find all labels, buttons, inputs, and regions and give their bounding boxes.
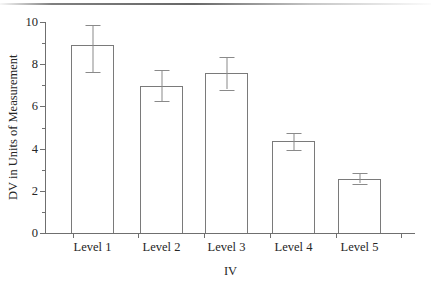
y-tick-label-0: 0	[32, 227, 38, 240]
x-axis-spine	[45, 233, 415, 234]
y-tick-minor-9	[42, 43, 45, 44]
y-tick-6	[40, 106, 45, 107]
errorbar-cap-bottom-level-2	[154, 101, 169, 102]
bar-level-1	[71, 45, 114, 233]
errorbar-cap-bottom-level-3	[219, 90, 234, 91]
x-tick-label-level-4: Level 4	[275, 241, 313, 254]
bar-level-5	[338, 179, 381, 233]
x-tick-label-level-2: Level 2	[143, 241, 181, 254]
figure: DV in Units of Measurement 10 8 6 4 2 0	[0, 0, 431, 289]
y-tick-minor-1	[42, 212, 45, 213]
y-axis-spine	[45, 22, 46, 234]
y-axis-title: DV in Units of Measurement	[4, 22, 22, 233]
errorbar-line-level-4	[293, 133, 294, 150]
y-tick-minor-5	[42, 128, 45, 129]
errorbar-cap-top-level-3	[219, 57, 234, 58]
errorbar-cap-bottom-level-5	[352, 184, 367, 185]
x-tick-0	[73, 233, 74, 238]
plot-area: 10 8 6 4 2 0 Level	[46, 22, 415, 233]
y-tick-8	[40, 64, 45, 65]
errorbar-cap-bottom-level-1	[85, 72, 100, 73]
y-tick-2	[40, 191, 45, 192]
y-tick-label-2: 2	[32, 185, 38, 198]
y-tick-0	[40, 233, 45, 234]
y-tick-4	[40, 149, 45, 150]
errorbar-cap-top-level-5	[352, 173, 367, 174]
errorbar-cap-top-level-1	[85, 25, 100, 26]
x-tick-4	[336, 233, 337, 238]
errorbar-cap-top-level-4	[286, 133, 301, 134]
top-scan-rule	[0, 3, 431, 5]
x-tick-label-level-5: Level 5	[341, 241, 379, 254]
bar-level-4	[272, 141, 315, 233]
y-tick-label-10: 10	[26, 16, 39, 29]
y-tick-10	[40, 22, 45, 23]
errorbar-line-level-3	[226, 57, 227, 90]
y-axis-title-text: DV in Units of Measurement	[7, 55, 20, 201]
y-tick-label-4: 4	[32, 142, 38, 155]
y-tick-label-6: 6	[32, 100, 38, 113]
bar-level-2	[140, 86, 183, 233]
errorbar-cap-top-level-2	[154, 70, 169, 71]
x-tick-label-level-3: Level 3	[208, 241, 246, 254]
y-tick-minor-7	[42, 85, 45, 86]
errorbar-line-level-5	[359, 173, 360, 184]
errorbar-line-level-1	[92, 25, 93, 71]
y-tick-minor-3	[42, 170, 45, 171]
x-axis-title: IV	[46, 265, 415, 278]
y-tick-label-8: 8	[32, 58, 38, 71]
x-tick-2	[204, 233, 205, 238]
errorbar-cap-bottom-level-4	[286, 150, 301, 151]
x-tick-3	[270, 233, 271, 238]
x-tick-1	[138, 233, 139, 238]
bar-level-3	[205, 73, 248, 233]
x-tick-5	[401, 233, 402, 238]
errorbar-line-level-2	[161, 70, 162, 102]
x-tick-label-level-1: Level 1	[74, 241, 112, 254]
